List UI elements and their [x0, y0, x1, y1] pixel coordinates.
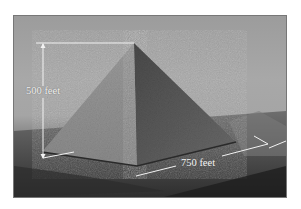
base-length-label: 750 feet	[181, 157, 215, 168]
height-label: 500 feet	[26, 85, 60, 96]
arrow-up-icon	[41, 43, 46, 48]
pyramid-photo: 500 feet 750 feet	[13, 15, 287, 198]
pyramid-illustration	[14, 16, 286, 197]
pyramid-lit-face	[42, 43, 137, 166]
